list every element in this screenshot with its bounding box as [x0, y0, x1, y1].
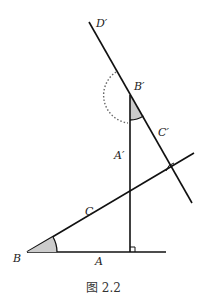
angle-b-shading: [27, 237, 57, 252]
line-d-prime-c-prime: [89, 22, 192, 203]
label-b: B: [12, 252, 21, 265]
line-c: [27, 153, 194, 252]
figure-caption: 图 2.2: [86, 281, 121, 295]
geometry-figure: D′ B′ C′ A′ C B A 图 2.2: [0, 0, 208, 305]
label-a: A: [94, 255, 103, 268]
label-d-prime: D′: [95, 17, 108, 30]
label-c: C: [85, 205, 94, 218]
label-c-prime: C′: [158, 126, 169, 139]
label-a-prime: A′: [113, 149, 125, 162]
label-b-prime: B′: [133, 80, 145, 93]
dotted-exterior-angle-arc: [104, 72, 128, 123]
